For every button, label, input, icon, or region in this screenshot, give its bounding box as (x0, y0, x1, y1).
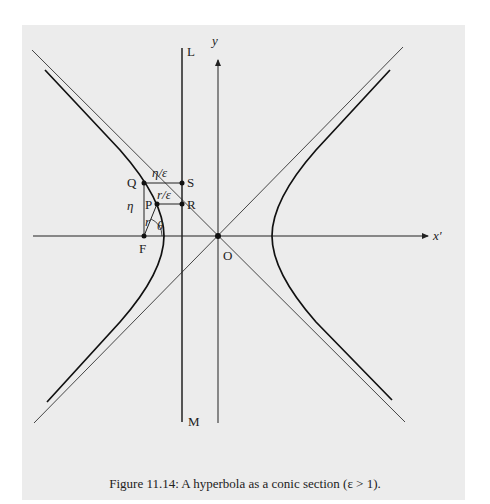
point-O (215, 233, 221, 239)
hyperbola-diagram: y x′ L M Q S P R F O η η/ε r/ε r θ (0, 0, 490, 504)
label-R: R (187, 197, 196, 212)
label-y-axis: y (210, 33, 218, 48)
label-r-over-epsilon: r/ε (157, 187, 172, 202)
label-Q: Q (127, 175, 137, 190)
label-P: P (145, 197, 152, 212)
point-Q (142, 181, 147, 186)
label-eta-over-epsilon: η/ε (152, 165, 168, 180)
point-F (142, 234, 147, 239)
label-M: M (188, 414, 200, 429)
label-theta: θ (157, 218, 164, 233)
figure-caption: Figure 11.14: A hyperbola as a conic sec… (0, 476, 490, 492)
label-L: L (187, 44, 195, 59)
label-F: F (139, 241, 146, 256)
point-R (180, 202, 185, 207)
label-O: O (223, 248, 232, 263)
label-eta: η (127, 198, 133, 213)
point-P (155, 202, 160, 207)
label-x-axis: x′ (432, 228, 442, 243)
point-S (180, 181, 185, 186)
label-S: S (187, 175, 194, 190)
